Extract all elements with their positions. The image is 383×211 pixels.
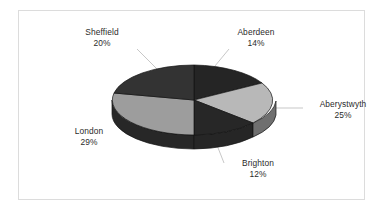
slice-label-aberdeen: Aberdeen 14% [224,27,288,49]
slice-label-brighton-value: 12% [226,169,290,180]
slice-label-aberystwyth-name: Aberystwyth [306,99,380,110]
slice-label-sheffield-name: Sheffield [70,27,134,38]
slice-label-brighton-name: Brighton [226,158,290,169]
pie-top-surface [112,65,272,135]
slice-label-london-name: London [58,126,120,137]
slice-label-aberdeen-name: Aberdeen [224,27,288,38]
slice-label-aberystwyth: Aberystwyth 25% [306,99,380,121]
slice-label-london-value: 29% [58,137,120,148]
slice-label-aberdeen-value: 14% [224,38,288,49]
slice-label-sheffield: Sheffield 20% [70,27,134,49]
pie-chart-figure: Sheffield 20% Aberdeen 14% Aberystwyth 2… [0,0,383,211]
slice-label-aberystwyth-value: 25% [306,110,380,121]
slice-label-brighton: Brighton 12% [226,158,290,180]
slice-label-sheffield-value: 20% [70,38,134,49]
slice-label-london: London 29% [58,126,120,148]
